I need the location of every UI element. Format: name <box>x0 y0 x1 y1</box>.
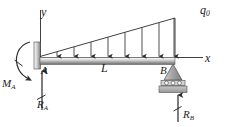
moment-subscript: A <box>11 83 15 91</box>
distributed-load-profile <box>40 18 175 57</box>
roller-wheel-icon <box>178 81 182 85</box>
reaction-a-subscript: A <box>44 104 48 112</box>
reaction-force-arrow-icon-b <box>174 95 182 122</box>
fixed-support-icon <box>34 42 41 69</box>
reaction-label-a: RA <box>37 99 48 110</box>
reaction-b-symbol: R <box>183 108 190 120</box>
reaction-a-symbol: R <box>37 98 44 110</box>
beam-diagram: y x q0 A B L MA RA RB <box>0 0 227 127</box>
diagram-canvas <box>0 0 227 127</box>
moment-arrow-icon <box>15 42 31 79</box>
span-length-label: L <box>101 62 108 74</box>
roller-wheel-icon <box>165 81 169 85</box>
moment-symbol: M <box>2 77 11 89</box>
point-label-a: A <box>41 65 48 76</box>
ground-hatch-icon <box>159 86 187 93</box>
axis-label-y: y <box>41 6 46 18</box>
distributed-load-arrows <box>57 19 174 57</box>
moment-label-a: MA <box>2 78 15 89</box>
roller-wheel-icon <box>171 81 175 85</box>
load-peak-subscript: 0 <box>206 9 210 18</box>
load-peak-label: q0 <box>200 4 210 16</box>
axis-label-x: x <box>205 52 210 64</box>
reaction-label-b: RB <box>183 109 194 120</box>
reaction-b-subscript: B <box>190 114 194 122</box>
point-label-b: B <box>160 65 167 76</box>
